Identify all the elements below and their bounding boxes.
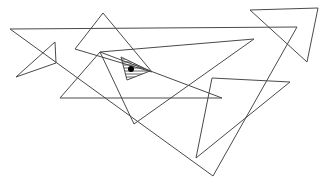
triangle-large-main — [10, 27, 297, 176]
diagram-canvas — [0, 0, 322, 188]
triangle-right-wedge — [196, 78, 290, 158]
center-dot — [128, 66, 134, 72]
triangle-top-right — [250, 8, 318, 62]
triangles-diagram — [0, 0, 322, 188]
shaded-triangle-outline — [121, 57, 150, 80]
triangle-top-middle — [75, 13, 152, 72]
triangle-outlines — [10, 8, 318, 176]
